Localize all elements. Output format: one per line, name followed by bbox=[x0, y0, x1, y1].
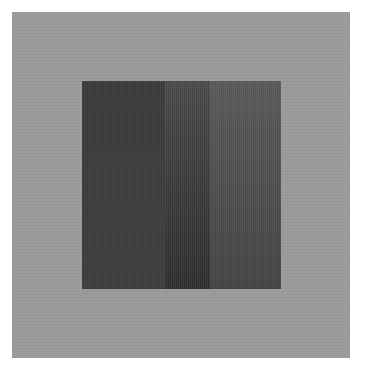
right-dark-band bbox=[210, 81, 281, 289]
dark-inner-square bbox=[82, 81, 281, 289]
left-dark-band bbox=[82, 81, 165, 289]
middle-dark-band bbox=[165, 81, 210, 289]
